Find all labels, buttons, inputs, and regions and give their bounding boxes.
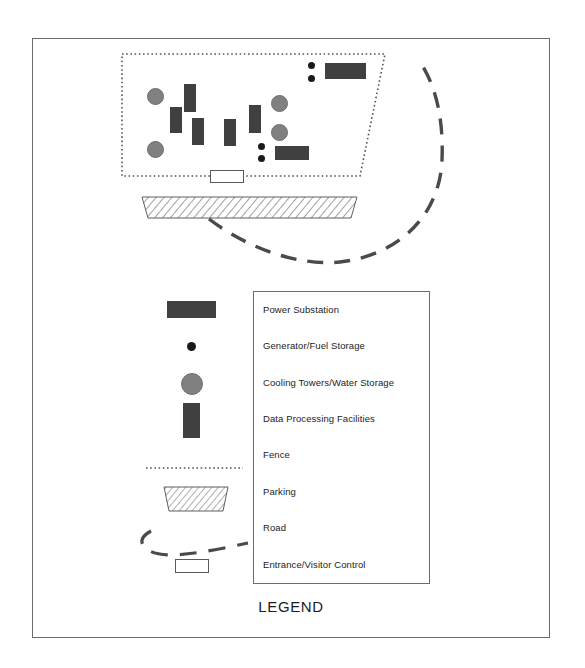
legend-item-label: Road — [263, 523, 286, 533]
legend-symbol-generator — [130, 328, 253, 365]
legend-item-road: Road — [254, 510, 429, 546]
generator-fuel-storage — [258, 155, 265, 162]
legend-item-power-substation: Power Substation — [254, 292, 429, 328]
gray-circle-icon — [181, 373, 203, 395]
legend-item-label: Parking — [263, 487, 296, 497]
legend-item-label: Entrance/Visitor Control — [263, 560, 366, 570]
generator-fuel-storage — [308, 75, 315, 82]
legend-item-fence: Fence — [254, 438, 429, 474]
filled-rectangle-vertical-icon — [183, 403, 200, 438]
legend-symbol-cooling-tower — [130, 365, 253, 402]
generator-fuel-storage — [308, 62, 315, 69]
cooling-tower — [147, 141, 164, 158]
legend-item-parking: Parking — [254, 474, 429, 510]
data-processing-facility — [170, 107, 182, 133]
legend-item-label: Data Processing Facilities — [263, 414, 375, 424]
legend-rows: Power Substation Generator/Fuel Storage … — [254, 292, 429, 583]
open-rectangle-icon — [175, 559, 209, 573]
legend-box: Power Substation Generator/Fuel Storage … — [253, 291, 430, 584]
legend-symbol-data-processing — [130, 402, 253, 439]
legend-symbol-column — [130, 291, 253, 584]
legend-item-label: Generator/Fuel Storage — [263, 341, 365, 351]
entrance-visitor-control — [210, 170, 244, 183]
data-processing-facility — [249, 105, 261, 133]
legend-symbol-entrance — [130, 547, 253, 584]
power-substation — [275, 146, 309, 160]
data-processing-facility — [224, 119, 236, 146]
legend-item-label: Cooling Towers/Water Storage — [263, 378, 394, 388]
data-processing-facility — [184, 84, 196, 112]
cooling-tower — [271, 124, 288, 141]
legend-item-label: Power Substation — [263, 305, 339, 315]
small-black-dot-icon — [187, 342, 196, 351]
power-substation — [325, 63, 366, 79]
generator-fuel-storage — [258, 143, 265, 150]
legend-item-generator: Generator/Fuel Storage — [254, 328, 429, 364]
site-plan-figure: Power Substation Generator/Fuel Storage … — [0, 0, 585, 668]
cooling-tower — [147, 88, 164, 105]
figure-title: LEGEND — [32, 598, 550, 615]
legend-item-data-processing: Data Processing Facilities — [254, 401, 429, 437]
filled-rectangle-horizontal-icon — [167, 301, 216, 318]
cooling-tower — [271, 95, 288, 112]
legend-item-entrance: Entrance/Visitor Control — [254, 547, 429, 583]
legend-item-cooling-tower: Cooling Towers/Water Storage — [254, 365, 429, 401]
data-processing-facility — [192, 118, 204, 145]
legend-symbol-power-substation — [130, 291, 253, 328]
legend-item-label: Fence — [263, 450, 290, 460]
